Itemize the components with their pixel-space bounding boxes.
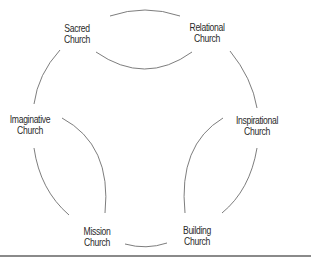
node-relational-church: Relational Church: [186, 22, 229, 44]
node-label-line2: Church: [64, 34, 90, 45]
arc-sacred-relational-inner: [96, 52, 192, 69]
arc-mission-building: [125, 243, 167, 247]
bottom-rule: [0, 255, 311, 257]
node-mission-church: Mission Church: [81, 226, 114, 248]
church-models-diagram: Sacred Church Relational Church Imaginat…: [0, 0, 311, 259]
node-inspirational-church: Inspirational Church: [231, 115, 282, 137]
arc-relational-inspirational: [230, 51, 257, 108]
node-label-line2: Church: [84, 237, 111, 248]
node-sacred-church: Sacred Church: [61, 23, 92, 45]
arc-inspirational-building-outer: [222, 148, 257, 213]
arc-sacred-relational-outer: [110, 10, 180, 16]
arc-imaginative-mission-outer: [34, 148, 69, 215]
node-label-line2: Church: [183, 236, 211, 247]
node-label-line2: Church: [189, 33, 224, 44]
arc-imaginative-mission-inner: [62, 118, 106, 213]
node-building-church: Building Church: [180, 225, 214, 247]
node-label-line2: Church: [10, 125, 50, 136]
arc-inspirational-building-inner: [184, 118, 223, 213]
node-imaginative-church: Imaginative Church: [5, 114, 54, 136]
node-label-line2: Church: [236, 126, 278, 137]
arc-sacred-imaginative: [34, 50, 60, 104]
